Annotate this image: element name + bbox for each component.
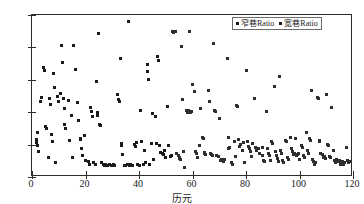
data-point (97, 32, 100, 35)
data-point (234, 155, 237, 158)
scatter-chart-figure: 0306090120150 Ratio 020406080100120 历元 窄… (0, 0, 364, 204)
data-point (90, 110, 93, 113)
data-point (303, 156, 306, 159)
data-point (223, 158, 226, 161)
data-point (81, 154, 84, 157)
data-point (251, 142, 254, 145)
data-point (121, 153, 124, 156)
data-point (327, 144, 330, 147)
data-points-layer (32, 15, 351, 175)
data-point (43, 69, 46, 72)
data-point (72, 44, 75, 47)
data-point (294, 137, 297, 140)
data-point (274, 150, 277, 153)
data-point (45, 127, 48, 130)
data-point (249, 150, 252, 153)
data-point (310, 89, 313, 92)
data-point (330, 106, 333, 109)
data-point (146, 63, 149, 66)
data-point (47, 156, 50, 159)
data-point (134, 145, 137, 148)
data-point (143, 149, 146, 152)
data-point (231, 163, 234, 166)
data-point (282, 161, 285, 164)
data-point (60, 44, 63, 47)
data-point (287, 158, 290, 161)
data-point (250, 155, 253, 158)
data-point (127, 20, 130, 23)
data-point (147, 78, 150, 81)
y-axis-tick-inner (32, 15, 36, 16)
data-point (140, 140, 143, 143)
y-axis-tick-inner (32, 80, 36, 81)
data-point (218, 117, 221, 120)
data-point (269, 159, 272, 162)
data-point (241, 149, 244, 152)
data-point (68, 139, 71, 142)
data-point (152, 158, 155, 161)
data-point (261, 154, 264, 157)
data-point (96, 114, 99, 117)
legend-label-wide-lane: 宽巷Ratio (284, 19, 317, 28)
data-point (289, 136, 292, 139)
data-point (227, 136, 230, 139)
data-point (181, 98, 184, 101)
data-point (191, 83, 194, 86)
data-point (120, 144, 123, 147)
legend-swatch-icon (279, 22, 282, 25)
data-point (307, 152, 310, 155)
data-point (146, 70, 149, 73)
data-point (268, 154, 271, 157)
data-point (63, 107, 66, 110)
chart-legend: 窄巷Ratio 宽巷Ratio (232, 17, 322, 30)
data-point (193, 90, 196, 93)
data-point (202, 137, 205, 140)
data-point (37, 150, 40, 153)
x-axis-tick-label: 0 (29, 179, 34, 189)
x-axis-tick-label: 100 (291, 179, 306, 189)
data-point (135, 141, 138, 144)
data-point (156, 55, 159, 58)
data-point (245, 69, 248, 72)
data-point (329, 156, 332, 159)
y-axis-tick-inner (32, 112, 36, 113)
data-point (63, 123, 66, 126)
data-point (309, 139, 312, 142)
data-point (53, 86, 56, 89)
data-point (345, 146, 348, 149)
data-point (233, 140, 236, 143)
data-point (174, 30, 177, 33)
data-point (257, 147, 260, 150)
data-point (39, 100, 42, 103)
data-point (54, 161, 57, 164)
data-point (139, 109, 142, 112)
data-point (212, 42, 215, 45)
x-axis-tick-label: 20 (80, 179, 90, 189)
data-point (195, 152, 198, 155)
data-point (36, 144, 39, 147)
data-point (74, 68, 77, 71)
data-point (113, 164, 116, 167)
data-point (226, 57, 229, 60)
data-point (298, 158, 301, 161)
legend-entry-narrow-lane: 窄巷Ratio (236, 19, 274, 28)
y-axis-tick-labels: 0306090120150 (0, 0, 28, 204)
data-point (94, 163, 97, 166)
x-axis-tick-label: 80 (240, 179, 250, 189)
data-point (179, 158, 182, 161)
data-point (325, 93, 328, 96)
data-point (265, 110, 268, 113)
data-point (48, 97, 51, 100)
data-point (76, 101, 79, 104)
x-axis-tick-label: 60 (187, 179, 197, 189)
x-axis-tick-label: 120 (345, 179, 360, 189)
data-point (211, 154, 214, 157)
data-point (138, 164, 141, 167)
data-point (273, 85, 276, 88)
data-point (62, 97, 65, 100)
data-point (148, 163, 151, 166)
data-point (61, 61, 64, 64)
data-point (261, 146, 264, 149)
data-point (64, 127, 67, 130)
data-point (314, 161, 317, 164)
